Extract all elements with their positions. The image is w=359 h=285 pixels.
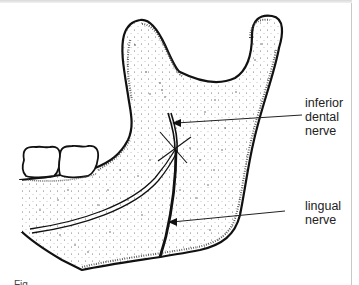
label-lingual-nerve: lingual nerve	[305, 199, 341, 227]
figure-frame: inferior dental nerve lingual nerve Fig.	[0, 0, 359, 285]
label-line: nerve	[305, 213, 341, 227]
label-line: dental	[305, 110, 343, 124]
mandible-diagram	[0, 0, 359, 285]
label-line: lingual	[305, 199, 341, 213]
teeth	[23, 146, 98, 181]
label-inferior-dental-nerve: inferior dental nerve	[305, 96, 343, 138]
label-line: inferior	[305, 96, 343, 110]
figure-caption-clipped: Fig.	[14, 280, 31, 285]
mandible-outline	[20, 16, 282, 270]
label-line: nerve	[305, 124, 343, 138]
